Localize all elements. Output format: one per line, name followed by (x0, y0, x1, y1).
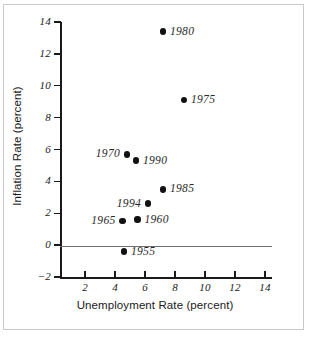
x-tick-label-5: 12 (225, 281, 245, 293)
data-point-1985[interactable] (160, 186, 167, 193)
point-label-1955: 1955 (131, 246, 155, 258)
y-tick-label-3: 4 (45, 174, 51, 186)
data-point-1960[interactable] (134, 216, 141, 223)
data-point-1965[interactable] (119, 218, 126, 225)
y-axis-title: Inflation Rate (percent) (11, 66, 23, 226)
zero-inflation-reference-line (60, 246, 272, 247)
y-tick-label-2: 2 (45, 206, 51, 218)
y-tick-7 (54, 53, 61, 54)
y-tick-0 (54, 276, 61, 277)
y-tick-6 (54, 85, 61, 86)
point-label-1994: 1994 (117, 198, 141, 210)
data-point-1990[interactable] (133, 157, 140, 164)
plot-area: −202468101214 2468101214 198019751970199… (0, 0, 310, 337)
point-label-1990: 1990 (143, 155, 167, 167)
y-tick-4 (54, 149, 61, 150)
x-tick-3 (174, 271, 175, 278)
x-tick-label-4: 10 (195, 281, 215, 293)
x-tick-label-3: 8 (165, 281, 185, 293)
x-tick-4 (204, 271, 205, 278)
y-tick-label-1: 0 (45, 238, 51, 250)
point-label-1960: 1960 (145, 214, 169, 226)
x-axis-title: Unemployment Rate (percent) (0, 299, 310, 311)
point-label-1965: 1965 (91, 215, 115, 227)
data-point-1994[interactable] (145, 200, 152, 207)
data-point-1980[interactable] (160, 28, 167, 35)
x-tick-label-0: 2 (75, 281, 95, 293)
y-tick-label-0: −2 (38, 270, 51, 282)
x-tick-5 (234, 271, 235, 278)
point-label-1975: 1975 (191, 94, 215, 106)
data-point-1970[interactable] (124, 151, 131, 158)
y-tick-3 (54, 181, 61, 182)
x-tick-2 (144, 271, 145, 278)
x-tick-label-1: 4 (105, 281, 125, 293)
x-tick-1 (114, 271, 115, 278)
y-tick-2 (54, 213, 61, 214)
inflation-unemployment-scatter-figure: −202468101214 2468101214 198019751970199… (0, 0, 310, 337)
x-tick-label-6: 14 (255, 281, 275, 293)
x-axis-line (60, 277, 272, 279)
x-tick-6 (264, 271, 265, 278)
x-tick-label-2: 6 (135, 281, 155, 293)
y-tick-label-7: 12 (40, 47, 51, 59)
data-point-1955[interactable] (121, 248, 128, 255)
y-tick-label-6: 10 (40, 79, 51, 91)
y-tick-label-4: 6 (45, 143, 51, 155)
y-tick-8 (54, 21, 61, 22)
point-label-1980: 1980 (170, 26, 194, 38)
y-tick-label-5: 8 (45, 111, 51, 123)
point-label-1970: 1970 (96, 149, 120, 161)
point-label-1985: 1985 (170, 184, 194, 196)
y-tick-5 (54, 117, 61, 118)
x-tick-0 (84, 271, 85, 278)
y-tick-1 (54, 244, 61, 245)
y-tick-label-8: 14 (40, 15, 51, 27)
data-point-1975[interactable] (181, 97, 188, 104)
